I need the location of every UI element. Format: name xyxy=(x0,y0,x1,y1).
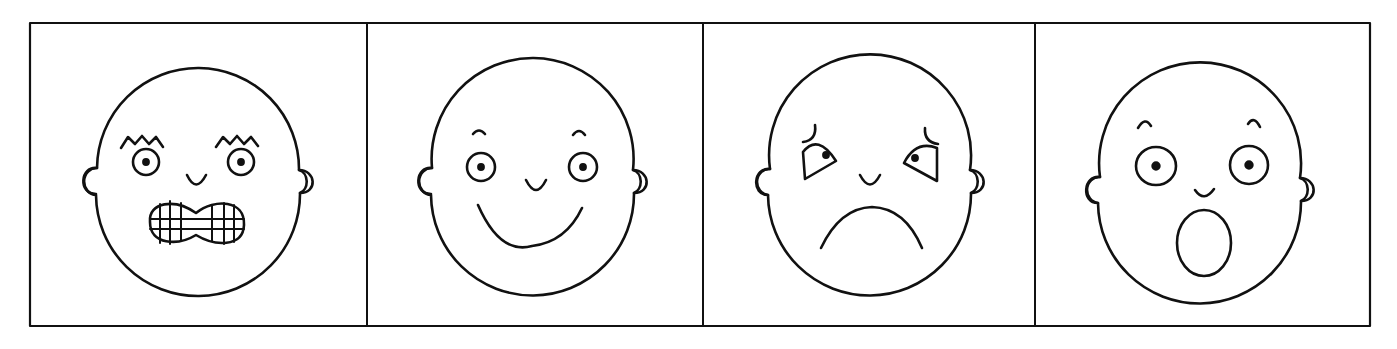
left-pupil xyxy=(143,159,148,164)
emotion-faces-figure xyxy=(0,0,1397,349)
panel-angry-face xyxy=(83,68,312,296)
right-pupil xyxy=(238,159,243,164)
right-pupil xyxy=(580,164,585,169)
panel-sad-face xyxy=(756,54,983,295)
left-pupil xyxy=(823,152,828,157)
face-outline xyxy=(1087,62,1308,303)
face-outline xyxy=(84,68,307,296)
right-pupil xyxy=(912,155,917,160)
left-pupil xyxy=(1153,163,1160,170)
panel-surprised-face xyxy=(1086,62,1313,303)
right-pupil xyxy=(1246,162,1253,169)
face-outline xyxy=(757,54,978,295)
panel-happy-face xyxy=(418,58,646,295)
face-outline xyxy=(419,58,641,295)
left-pupil xyxy=(478,164,483,169)
